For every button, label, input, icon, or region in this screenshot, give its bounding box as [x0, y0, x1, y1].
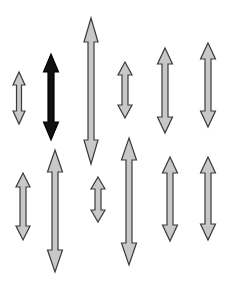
distractor-double-arrow-icon [48, 150, 63, 272]
distractor-double-arrow-icon [201, 43, 216, 127]
distractor-double-arrow-icon [201, 157, 216, 240]
stimulus-canvas [0, 0, 227, 283]
distractor-double-arrow-icon [91, 177, 105, 222]
distractor-double-arrow-icon [16, 173, 30, 240]
distractor-double-arrow-icon [84, 18, 98, 164]
target-double-arrow-icon [44, 54, 59, 140]
distractor-double-arrow-icon [118, 62, 132, 118]
distractor-double-arrow-icon [13, 72, 25, 124]
distractor-double-arrow-icon [158, 48, 173, 133]
distractor-double-arrow-icon [122, 138, 137, 265]
arrow-array [0, 0, 227, 283]
distractor-double-arrow-icon [163, 157, 178, 241]
